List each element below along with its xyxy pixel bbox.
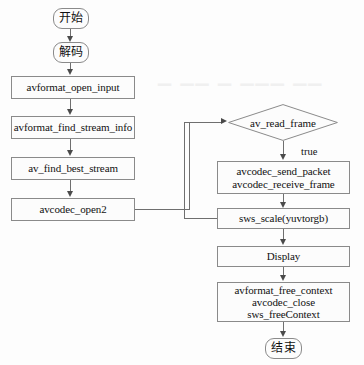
edge-loopback-h: [184, 218, 217, 219]
node-decode: 解码: [53, 42, 89, 63]
arrowhead-send-receive: [280, 154, 286, 160]
node-avcodec-send-receive-line-2: avcodec_receive_frame: [232, 178, 334, 190]
arrowhead-open-input: [67, 69, 73, 75]
node-decode-label: 解码: [59, 46, 84, 59]
node-end-label: 结束: [271, 342, 296, 355]
node-sws-scale-label: sws_scale(yuvtorgb): [239, 212, 328, 224]
node-av-read-frame-label: av_read_frame: [228, 104, 338, 141]
node-avformat-find-stream-info-label: avformat_find_stream_info: [14, 121, 132, 133]
arrowhead-find-stream-info: [67, 109, 73, 115]
node-end: 结束: [265, 338, 302, 359]
edge-label-true: true: [301, 146, 317, 157]
node-av-read-frame: av_read_frame: [228, 104, 338, 141]
node-cleanup-line-1: avformat_free_context: [234, 284, 332, 296]
node-avcodec-open2: avcodec_open2: [11, 198, 135, 221]
node-avformat-find-stream-info: avformat_find_stream_info: [11, 116, 135, 139]
node-av-find-best-stream: av_find_best_stream: [11, 157, 135, 180]
arrowhead-cleanup: [280, 275, 286, 281]
edge-into-read-frame: [184, 122, 222, 123]
node-avcodec-open2-label: avcodec_open2: [39, 203, 106, 215]
node-avformat-open-input-label: avformat_open_input: [27, 81, 120, 93]
edge-loopback-v: [184, 122, 185, 219]
edge-codec-open-to-read-frame-h: [135, 209, 190, 210]
arrowhead-end: [280, 331, 286, 337]
node-sws-scale: sws_scale(yuvtorgb): [217, 208, 350, 229]
node-start: 开始: [53, 8, 89, 29]
node-cleanup: avformat_free_context avcodec_close sws_…: [217, 282, 350, 322]
node-display-label: Display: [267, 250, 301, 262]
watermark-streak: ▁ ▁▁ ▁ ▁▁▁ ▁▁: [158, 66, 323, 86]
node-cleanup-line-3: sws_freeContext: [247, 308, 319, 320]
node-av-find-best-stream-label: av_find_best_stream: [28, 162, 118, 174]
node-avformat-open-input: avformat_open_input: [11, 76, 135, 99]
node-avcodec-send-receive: avcodec_send_packet avcodec_receive_fram…: [217, 161, 350, 194]
edge-codec-open-to-read-frame-v: [189, 122, 190, 210]
node-cleanup-line-2: avcodec_close: [252, 296, 315, 308]
node-display: Display: [217, 246, 350, 267]
node-avcodec-send-receive-line-1: avcodec_send_packet: [237, 165, 331, 177]
arrowhead-read-frame: [221, 118, 227, 124]
arrowhead-codec-open: [67, 191, 73, 197]
arrowhead-display: [280, 239, 286, 245]
flowchart-canvas: ▁ ▁▁ ▁ ▁▁▁ ▁▁ 开始 解码 avformat_open_input …: [0, 0, 364, 365]
node-start-label: 开始: [59, 12, 84, 25]
arrowhead-find-best-stream: [67, 150, 73, 156]
edge-read-frame-to-send-receive: [283, 141, 284, 155]
